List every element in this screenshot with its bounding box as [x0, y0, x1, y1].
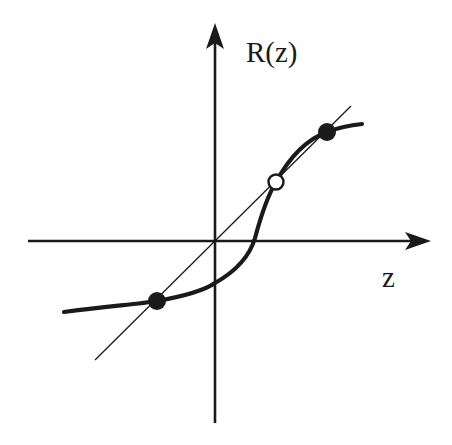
fixed-point-lower-filled — [148, 292, 166, 310]
y-axis-label: R(z) — [246, 36, 298, 69]
identity-line — [95, 106, 351, 360]
fixed-point-diagram: R(z) z — [0, 0, 452, 445]
fixed-point-middle-open — [269, 175, 284, 190]
r-axis — [206, 23, 224, 423]
z-axis — [28, 232, 431, 250]
fixed-point-upper-filled — [318, 123, 336, 141]
x-axis-label: z — [382, 261, 395, 293]
response-curve — [64, 124, 362, 312]
